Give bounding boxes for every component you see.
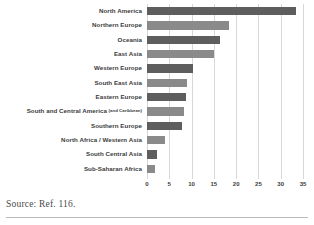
axis-tick-label: 30 bbox=[277, 181, 284, 187]
bottom-divider bbox=[6, 217, 308, 218]
category-label: South and Central America(and Caribbean) bbox=[0, 104, 145, 118]
category-label: Western Europe bbox=[0, 61, 145, 75]
category-label-text: Western Europe bbox=[94, 65, 142, 71]
axis-tick bbox=[147, 176, 148, 179]
category-axis-labels: North AmericaNorthern EuropeOceaniaEast … bbox=[0, 4, 145, 176]
category-label: South East Asia bbox=[0, 76, 145, 90]
category-label: Oceania bbox=[0, 33, 145, 47]
source-note: Source: Ref. 116. bbox=[6, 199, 76, 209]
bar-row bbox=[147, 33, 303, 47]
category-label: South Central Asia bbox=[0, 147, 145, 161]
bar bbox=[147, 79, 187, 88]
bar-chart: North AmericaNorthern EuropeOceaniaEast … bbox=[0, 4, 314, 196]
category-label-text: Eastern Europe bbox=[96, 94, 142, 100]
category-label-text: South East Asia bbox=[94, 80, 142, 86]
category-label: Eastern Europe bbox=[0, 90, 145, 104]
category-label-text: Southern Europe bbox=[91, 123, 142, 129]
axis-tick bbox=[281, 176, 282, 179]
bar bbox=[147, 64, 193, 73]
bar-row bbox=[147, 162, 303, 176]
axis-tick-label: 5 bbox=[168, 181, 171, 187]
category-label: Northern Europe bbox=[0, 18, 145, 32]
bar bbox=[147, 136, 165, 145]
bar bbox=[147, 122, 182, 131]
bar bbox=[147, 50, 214, 59]
bar-row bbox=[147, 104, 303, 118]
bar bbox=[147, 165, 155, 174]
bar-row bbox=[147, 147, 303, 161]
category-label-text: North America bbox=[99, 8, 142, 14]
category-label-annotation: (and Caribbean) bbox=[109, 109, 142, 113]
axis-tick-label: 15 bbox=[211, 181, 218, 187]
axis-tick-label: 20 bbox=[233, 181, 240, 187]
axis-tick bbox=[214, 176, 215, 179]
axis-tick bbox=[258, 176, 259, 179]
bar bbox=[147, 150, 157, 159]
plot-area bbox=[147, 4, 304, 176]
axis-tick-label: 35 bbox=[300, 181, 307, 187]
category-label: Southern Europe bbox=[0, 119, 145, 133]
bar bbox=[147, 36, 220, 45]
bar-row bbox=[147, 4, 303, 18]
category-label-text: Northern Europe bbox=[92, 22, 142, 28]
axis-tick bbox=[236, 176, 237, 179]
category-label-text: Oceania bbox=[118, 37, 142, 43]
bar bbox=[147, 107, 184, 116]
bar-row bbox=[147, 133, 303, 147]
axis-tick bbox=[303, 176, 304, 179]
bar-series bbox=[147, 4, 303, 176]
bar-row bbox=[147, 90, 303, 104]
category-label: Sub-Saharan Africa bbox=[0, 162, 145, 176]
bar bbox=[147, 7, 296, 16]
bar-row bbox=[147, 47, 303, 61]
category-label: North America bbox=[0, 4, 145, 18]
category-label-text: South Central Asia bbox=[86, 151, 142, 157]
category-label-text: North Africa / Western Asia bbox=[61, 137, 142, 143]
bar bbox=[147, 93, 186, 102]
bar-row bbox=[147, 119, 303, 133]
category-label-text: East Asia bbox=[114, 51, 142, 57]
bar bbox=[147, 21, 229, 30]
value-axis: 05101520253035 bbox=[147, 176, 303, 196]
bar-row bbox=[147, 61, 303, 75]
axis-tick bbox=[169, 176, 170, 179]
axis-tick-label: 0 bbox=[145, 181, 148, 187]
bar-row bbox=[147, 18, 303, 32]
category-label-text: South and Central America bbox=[27, 108, 107, 114]
category-label-text: Sub-Saharan Africa bbox=[84, 166, 142, 172]
axis-tick-label: 10 bbox=[188, 181, 195, 187]
axis-tick bbox=[192, 176, 193, 179]
category-label: North Africa / Western Asia bbox=[0, 133, 145, 147]
axis-tick-label: 25 bbox=[255, 181, 262, 187]
category-label: East Asia bbox=[0, 47, 145, 61]
figure-container: North AmericaNorthern EuropeOceaniaEast … bbox=[0, 0, 314, 225]
bar-row bbox=[147, 76, 303, 90]
gridline bbox=[303, 4, 304, 176]
